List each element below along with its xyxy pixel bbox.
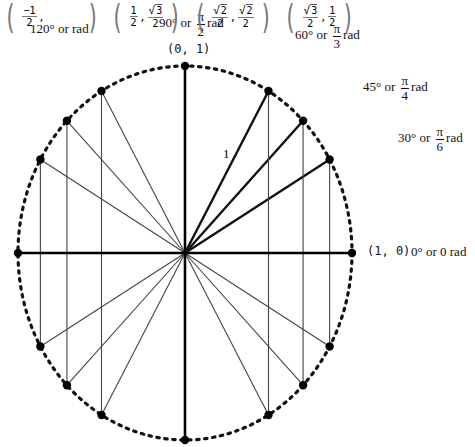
point-330 xyxy=(325,342,333,350)
point-225 xyxy=(63,381,71,389)
radius-line-135 xyxy=(67,121,185,253)
coord-90: (0, 1) xyxy=(167,42,210,56)
point-240 xyxy=(97,411,105,419)
point-120 xyxy=(97,87,105,95)
right-paren: ) xyxy=(87,0,99,34)
radius-line-120 xyxy=(102,91,186,253)
point-90 xyxy=(181,62,189,70)
radius-line-300 xyxy=(185,253,269,415)
point-180 xyxy=(14,249,22,257)
point-30 xyxy=(325,155,333,163)
point-135 xyxy=(63,117,71,125)
coord-0: (1, 0) xyxy=(367,244,410,258)
point-210 xyxy=(36,342,44,350)
label-45-degrees: 45° or π4rad xyxy=(363,74,428,103)
radius-line-225 xyxy=(67,253,185,385)
point-300 xyxy=(264,411,272,419)
unit-circle-diagram xyxy=(0,0,475,447)
point-0 xyxy=(348,249,356,257)
point-270 xyxy=(181,436,189,444)
radius-line-240 xyxy=(102,253,186,415)
label-0-degrees: 0° or 0 rad xyxy=(411,245,466,258)
left-paren: ( xyxy=(4,0,16,34)
label-120-degrees: 120° or rad xyxy=(30,22,89,35)
point-315 xyxy=(299,381,307,389)
point-60 xyxy=(264,87,272,95)
radius-label: 1 xyxy=(223,146,230,162)
radius-line-150 xyxy=(40,160,185,254)
label-30-degrees: 30° or π6rad xyxy=(398,125,463,154)
radius-line-330 xyxy=(185,253,330,347)
radius-line-210 xyxy=(40,253,185,347)
point-45 xyxy=(299,117,307,125)
point-150 xyxy=(36,155,44,163)
radius-line-315 xyxy=(185,253,303,385)
